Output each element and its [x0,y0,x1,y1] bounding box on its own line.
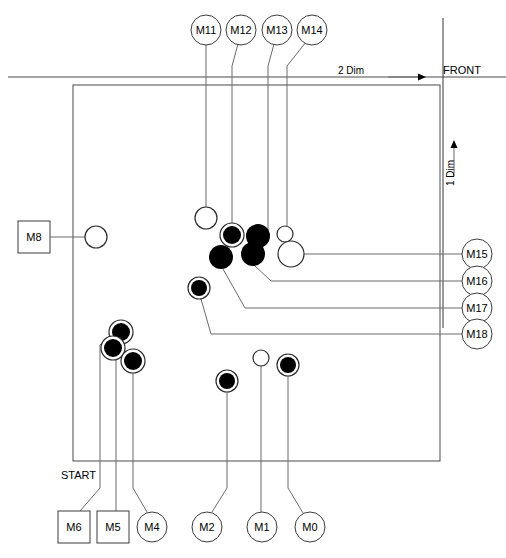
marker-dot-m5 [104,339,122,357]
node-label-m13: M13 [266,24,287,36]
node-m2[interactable]: M2 [192,512,222,542]
marker-dot-m2 [219,373,235,389]
lead-line-m17 [223,269,462,308]
marker-filled-m13-lower [241,242,265,266]
lead-line-m18 [201,299,462,334]
node-m14[interactable]: M14 [297,15,327,45]
node-label-m17: M17 [466,302,487,314]
node-label-m15: M15 [466,248,487,260]
node-m16[interactable]: M16 [462,266,492,296]
marker-dot-m4 [124,352,142,370]
lead-line-m4 [133,372,147,512]
node-m11[interactable]: M11 [191,15,221,45]
lead-line-m2 [212,392,227,512]
marker-open-m8 [85,226,107,248]
node-label-m12: M12 [230,24,251,36]
start-label: START [61,469,96,481]
node-m5[interactable]: M5 [97,511,129,543]
component-markers [85,207,304,392]
node-label-m14: M14 [301,24,322,36]
layout-diagram: 2 Dim 1 Dim FRONT START [0,0,506,558]
node-m0[interactable]: M0 [295,512,325,542]
node-label-m16: M16 [466,275,487,287]
marker-open-m14 [277,226,293,242]
dimension-arrow-1dim: 1 Dim [445,140,458,186]
marker-open-m1 [253,350,269,366]
front-label: FRONT [443,64,481,76]
marker-dot-m0 [280,357,296,373]
node-label-m0: M0 [302,521,317,533]
axis-label-2dim: 2 Dim [338,65,364,76]
arrow-head-horizontal [418,74,426,81]
node-label-m2: M2 [199,521,214,533]
node-label-m8: M8 [26,231,41,243]
dimension-arrow-2dim: 2 Dim [338,65,426,81]
node-bubbles: M11 M12 M13 M14 M15 M16 [18,15,492,543]
lead-line-m14 [287,42,306,226]
layout-frame [73,85,440,461]
node-m8[interactable]: M8 [18,221,50,253]
diagram-canvas: 2 Dim 1 Dim FRONT START [0,0,506,558]
node-label-m6: M6 [66,521,81,533]
node-m15[interactable]: M15 [462,239,492,269]
node-m13[interactable]: M13 [262,15,292,45]
marker-dot-m17 [191,280,207,296]
node-m12[interactable]: M12 [226,15,256,45]
node-m6[interactable]: M6 [58,511,90,543]
lead-line-m12 [232,44,238,223]
node-label-m5: M5 [105,521,120,533]
lead-line-m6 [80,333,112,511]
node-label-m11: M11 [196,24,217,36]
axis-label-1dim: 1 Dim [445,160,456,186]
node-m1[interactable]: M1 [247,512,277,542]
arrow-head-vertical [451,140,458,148]
marker-open-m11 [195,207,217,229]
node-label-m18: M18 [466,328,487,340]
node-m18[interactable]: M18 [462,319,492,349]
marker-open-m15 [278,241,304,267]
lead-line-m13 [268,44,274,236]
leader-lines [50,42,462,513]
node-m4[interactable]: M4 [137,512,167,542]
node-label-m1: M1 [254,521,269,533]
node-label-m4: M4 [144,521,159,533]
marker-dot-m12 [223,226,241,244]
lead-line-m0 [288,376,303,513]
marker-filled-m16 [209,245,233,269]
lead-line-m16 [254,265,462,281]
